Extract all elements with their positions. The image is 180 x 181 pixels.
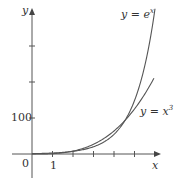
x-axis-label: x [152, 160, 158, 171]
cube-label-text: y = x [140, 105, 169, 118]
exp-curve-label: y = ex [121, 8, 154, 20]
x-tick-label-1: 1 [50, 160, 57, 171]
chart: y x 0 1 100 y = ex y = x3 [0, 0, 180, 181]
exp-curve [32, 9, 155, 154]
cube-curve-label: y = x3 [140, 105, 173, 117]
y-axis-label: y [22, 5, 28, 16]
exp-label-text: y = e [121, 8, 150, 21]
y-tick-label-100: 100 [11, 112, 32, 123]
origin-label: 0 [22, 158, 29, 169]
cube-curve [32, 78, 154, 154]
x-axis-arrow-icon [154, 151, 161, 157]
exp-label-sup: x [150, 7, 154, 15]
plot-area [0, 0, 180, 181]
cube-label-sup: 3 [169, 104, 173, 112]
y-axis-arrow-icon [29, 8, 35, 15]
